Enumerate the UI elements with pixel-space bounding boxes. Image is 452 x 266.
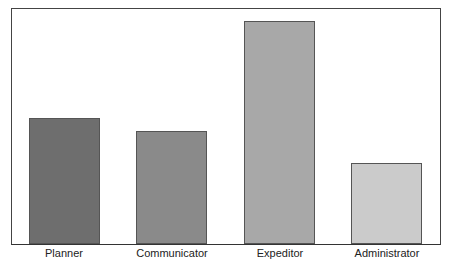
plot-area: [11, 8, 441, 245]
x-tick-label-planner: Planner: [4, 247, 124, 259]
bar-expeditor: [244, 21, 315, 244]
bar-administrator: [351, 163, 422, 244]
x-tick-label-communicator: Communicator: [112, 247, 232, 259]
bar-communicator: [136, 131, 207, 244]
x-tick-label-expeditor: Expeditor: [220, 247, 340, 259]
bar-planner: [29, 118, 100, 244]
x-tick-label-administrator: Administrator: [327, 247, 447, 259]
